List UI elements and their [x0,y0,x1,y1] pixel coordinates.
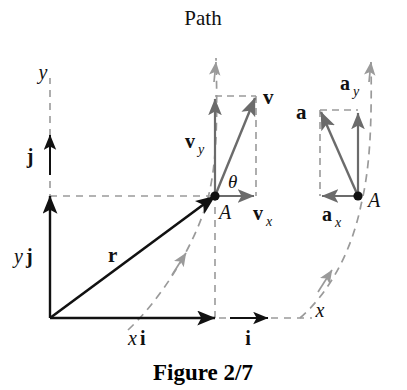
trajectory-path-curve-acceleration [300,58,371,318]
point-a-velocity-marker [210,191,219,200]
position-component-xi-label: x i [127,327,146,349]
angle-theta-label: θ [228,171,237,192]
velocity-component-vx-label: v x [253,202,273,229]
ax-subscript: x [334,215,342,230]
coordinate-axes [50,78,312,318]
xi-unit: i [140,327,146,349]
figure-2-7-container: Path y x j i y j x i r θ A v v y [0,0,407,390]
vx-subscript: x [265,214,273,229]
ax-base: a [322,203,332,225]
velocity-vector-v-label: v [263,85,274,109]
velocity-component-vy-label: v y [185,130,205,157]
figure-caption: Figure 2/7 [153,360,253,385]
acceleration-component-ax-label: a x [322,203,342,230]
position-component-yj-label: y j [12,245,33,268]
yj-unit: j [25,245,33,268]
ay-subscript: y [351,84,360,99]
x-axis-label: x [315,299,325,321]
trajectory-path-curve [128,58,217,330]
ay-base: a [340,72,350,94]
vy-base: v [185,130,195,152]
vy-subscript: y [196,142,205,157]
acceleration-vector-a-arrow [321,112,358,196]
yj-scalar: y [12,245,23,268]
position-vector-r-arrow [50,196,215,318]
y-axis-label: y [37,61,48,84]
vx-base: v [253,202,263,224]
path-label: Path [184,6,222,30]
position-vector-r-label: r [108,243,117,267]
acceleration-component-ay-label: a y [340,72,360,99]
point-a-acceleration-label: A [366,189,381,211]
acceleration-vector-a-label: a [296,100,307,124]
unit-vector-j-label: j [26,145,34,168]
point-a-acceleration-marker [353,191,362,200]
kinematics-vector-diagram: Path y x j i y j x i r θ A v v y [0,0,407,390]
xi-scalar: x [127,327,137,349]
unit-vector-i-label: i [245,327,251,349]
point-a-velocity-label: A [217,201,232,223]
